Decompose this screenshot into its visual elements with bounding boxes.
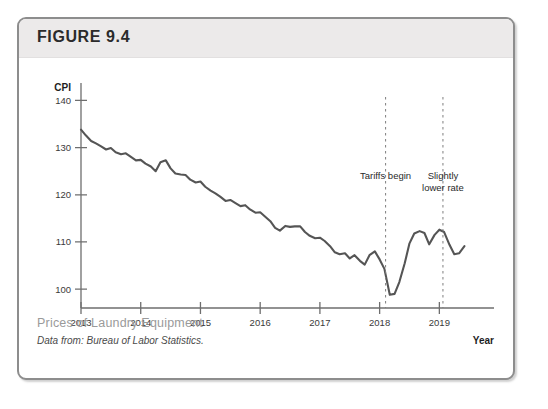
y-tick-label-110: 110 [56,236,71,247]
figure-card: FIGURE 9.4 100110120130140CPI20132014201… [17,17,515,380]
caption-source: Data from: Bureau of Labor Statistics. [37,335,477,346]
figure-label: FIGURE 9.4 [37,28,130,46]
caption-title: Prices of Laundry Equipment [37,316,477,330]
annotation-label-tariffs-begin: Tariffs begin [360,170,411,181]
y-tick-label-100: 100 [55,284,71,295]
y-tick-label-120: 120 [55,189,71,200]
annotation-label-slightly-lower-rate: lower rate [422,182,464,193]
annotation-label-slightly-lower-rate: Slightly [428,170,459,181]
data-line-cpi [81,130,464,295]
y-axis-label: CPI [54,82,71,93]
caption-block: Prices of Laundry Equipment Data from: B… [37,316,477,346]
y-tick-label-130: 130 [55,142,71,153]
y-tick-label-140: 140 [55,95,71,106]
